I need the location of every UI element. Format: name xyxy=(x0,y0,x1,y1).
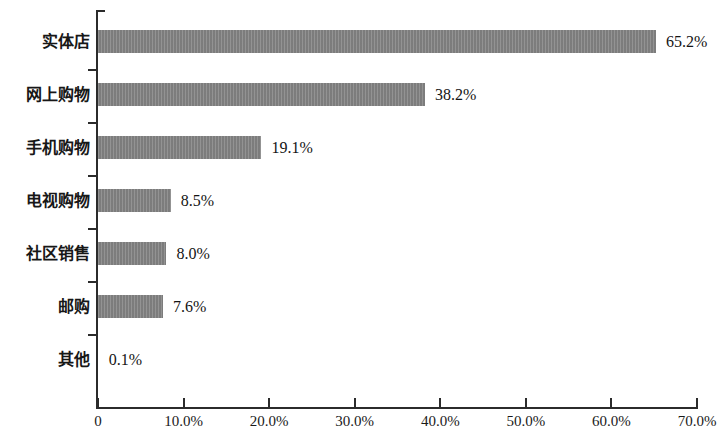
x-axis-tick-label: 0 xyxy=(58,411,138,431)
x-axis-tick-label: 40.0% xyxy=(400,411,480,431)
bar-value-label: 7.6% xyxy=(173,295,206,318)
x-axis-tick xyxy=(610,398,612,408)
x-axis-tick-label: 70.0% xyxy=(657,411,722,431)
category-label: 社区销售 xyxy=(0,243,90,265)
bar-value-label: 38.2% xyxy=(435,83,476,106)
category-label: 邮购 xyxy=(0,296,90,318)
bar-value-label: 8.0% xyxy=(176,242,209,265)
x-axis-tick xyxy=(439,398,441,408)
x-axis-tick-label: 50.0% xyxy=(486,411,566,431)
bar-value-label: 0.1% xyxy=(109,348,142,371)
category-label: 手机购物 xyxy=(0,137,90,159)
x-axis-tick xyxy=(97,398,99,408)
y-axis-tick xyxy=(88,69,97,71)
y-axis-tick xyxy=(88,175,97,177)
category-label: 其他 xyxy=(0,349,90,371)
category-label: 网上购物 xyxy=(0,84,90,106)
y-axis-tick xyxy=(88,334,97,336)
x-axis-tick xyxy=(525,398,527,408)
y-axis-tick xyxy=(88,122,97,124)
x-axis-line xyxy=(96,407,698,409)
category-label: 实体店 xyxy=(0,31,90,53)
bar-value-label: 19.1% xyxy=(271,136,312,159)
bar xyxy=(98,136,261,159)
x-axis-tick xyxy=(183,398,185,408)
bar xyxy=(98,189,171,212)
bar xyxy=(98,242,166,265)
x-axis-tick-label: 10.0% xyxy=(144,411,224,431)
x-axis-tick-label: 20.0% xyxy=(229,411,309,431)
x-axis-tick xyxy=(696,398,698,408)
y-axis-top-cap xyxy=(96,10,105,12)
category-label: 电视购物 xyxy=(0,190,90,212)
bar-chart: 010.0%20.0%30.0%40.0%50.0%60.0%70.0% 实体店… xyxy=(0,0,722,433)
x-axis-tick xyxy=(354,398,356,408)
x-axis-tick-label: 30.0% xyxy=(315,411,395,431)
bar xyxy=(98,295,163,318)
bar-value-label: 65.2% xyxy=(666,30,707,53)
bar xyxy=(98,83,425,106)
y-axis-tick xyxy=(88,281,97,283)
bar xyxy=(98,30,656,53)
y-axis-tick xyxy=(88,228,97,230)
bar-value-label: 8.5% xyxy=(181,189,214,212)
x-axis-tick-label: 60.0% xyxy=(571,411,651,431)
x-axis-tick xyxy=(268,398,270,408)
